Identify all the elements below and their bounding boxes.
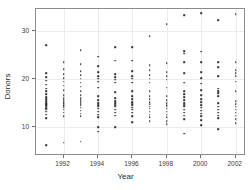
data-point xyxy=(80,116,82,118)
data-point xyxy=(114,82,116,84)
data-point xyxy=(149,121,151,123)
data-point xyxy=(132,46,134,48)
data-point xyxy=(200,120,202,122)
y-axis-label: Donors xyxy=(3,62,12,112)
data-point xyxy=(97,111,99,113)
gridline-horizontal-20 xyxy=(36,79,244,80)
data-point xyxy=(200,94,202,96)
data-point xyxy=(166,63,168,65)
y-tick-30 xyxy=(32,30,35,31)
data-point xyxy=(132,95,134,97)
data-point xyxy=(166,23,168,25)
data-point xyxy=(114,109,116,111)
data-point xyxy=(63,94,65,96)
data-point xyxy=(149,91,151,93)
data-point xyxy=(97,99,99,101)
data-point xyxy=(166,99,168,101)
data-point xyxy=(235,115,237,117)
data-point xyxy=(114,106,116,108)
data-point xyxy=(200,77,202,79)
data-point xyxy=(218,112,220,114)
y-tick-label-20: 20 xyxy=(13,74,29,81)
data-point xyxy=(183,91,185,93)
data-point xyxy=(132,75,134,77)
data-point xyxy=(200,98,202,100)
data-point xyxy=(149,114,151,116)
data-point xyxy=(235,14,237,16)
data-point xyxy=(149,65,151,67)
data-point xyxy=(218,67,220,69)
data-point xyxy=(80,141,82,143)
data-point xyxy=(235,112,237,114)
scatter-plot-figure: Donors Year 1992199419961998200020021020… xyxy=(0,0,251,190)
data-point xyxy=(200,124,202,126)
data-point xyxy=(183,106,185,108)
data-point xyxy=(183,119,185,121)
data-point xyxy=(183,72,185,74)
x-tick-label-1998: 1998 xyxy=(159,160,173,167)
data-point xyxy=(183,115,185,117)
data-point xyxy=(80,91,82,93)
data-point xyxy=(166,111,168,113)
data-point xyxy=(166,95,168,97)
data-point xyxy=(183,99,185,101)
y-tick-label-30: 30 xyxy=(13,26,29,33)
data-point xyxy=(149,36,151,38)
data-point xyxy=(235,109,237,111)
data-point xyxy=(114,126,116,128)
data-point xyxy=(218,102,220,104)
data-point xyxy=(46,111,48,113)
data-point xyxy=(46,114,48,116)
data-point xyxy=(114,46,116,48)
data-point xyxy=(63,85,65,87)
data-point xyxy=(80,113,82,115)
data-point xyxy=(149,69,151,71)
data-point xyxy=(218,88,220,90)
data-point xyxy=(166,71,168,73)
data-point xyxy=(132,98,134,100)
data-point xyxy=(46,88,48,90)
data-point xyxy=(63,112,65,114)
data-point xyxy=(46,80,48,82)
data-point xyxy=(46,118,48,120)
data-point xyxy=(166,87,168,89)
gridline-horizontal-10 xyxy=(36,127,244,128)
data-point xyxy=(63,81,65,83)
data-point xyxy=(46,145,48,147)
data-point xyxy=(63,142,65,144)
data-point xyxy=(149,98,151,100)
data-point xyxy=(200,101,202,103)
data-point xyxy=(183,53,185,55)
data-point xyxy=(183,133,185,135)
data-point xyxy=(218,109,220,111)
data-point xyxy=(149,78,151,80)
data-point xyxy=(183,62,185,64)
data-point xyxy=(218,106,220,108)
data-point xyxy=(97,56,99,58)
data-point xyxy=(183,14,185,16)
data-point xyxy=(200,62,202,64)
data-point xyxy=(218,93,220,95)
data-point xyxy=(200,113,202,115)
data-point xyxy=(63,109,65,111)
data-point xyxy=(235,106,237,108)
data-point xyxy=(166,121,168,123)
x-tick-1996 xyxy=(131,155,132,158)
data-point xyxy=(114,79,116,81)
data-point xyxy=(166,123,168,125)
data-point xyxy=(80,94,82,96)
data-point xyxy=(235,62,237,64)
data-point xyxy=(132,60,134,62)
data-point xyxy=(200,110,202,112)
x-axis-label: Year xyxy=(0,172,251,181)
data-point xyxy=(132,121,134,123)
data-point xyxy=(218,128,220,130)
data-point xyxy=(80,64,82,66)
data-point xyxy=(80,70,82,72)
data-point xyxy=(114,97,116,99)
data-point xyxy=(97,131,99,133)
data-point xyxy=(235,103,237,105)
data-point xyxy=(183,94,185,96)
data-point xyxy=(97,117,99,119)
plot-area xyxy=(35,8,245,155)
